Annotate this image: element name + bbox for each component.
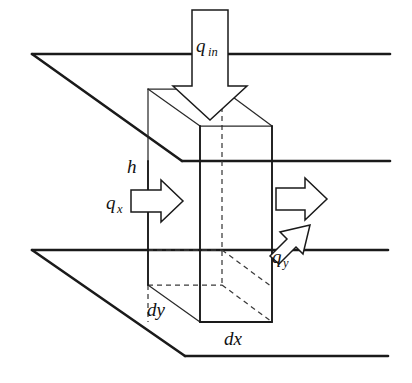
control-volume-diagram: q in q x q y h dy dx [0,0,412,383]
label-h: h [127,156,137,177]
label-dx: dx [224,328,243,349]
flux-arrows-group [131,10,327,264]
q-out-arrow [276,178,327,220]
label-q-x-base: q [106,192,116,213]
q-x-arrow [131,180,183,222]
box-hidden-bottom-plane-diagonal [222,250,272,287]
q-in-arrow [173,10,247,120]
label-dy: dy [147,299,166,320]
label-q-in-base: q [196,35,206,56]
label-q-x: q x [106,192,123,216]
label-q-y-subscript: y [281,256,289,270]
diagram-canvas: q in q x q y h dy dx [0,0,412,383]
label-q-y-base: q [272,246,282,267]
lower-plane-group [32,250,388,356]
label-q-in-subscript: in [208,45,218,59]
top-plane-left-edge [32,54,182,161]
label-q-x-subscript: x [116,202,123,216]
control-volume-solid-edges [148,126,272,322]
box-hidden-bottom-right-diagonal [222,285,272,322]
